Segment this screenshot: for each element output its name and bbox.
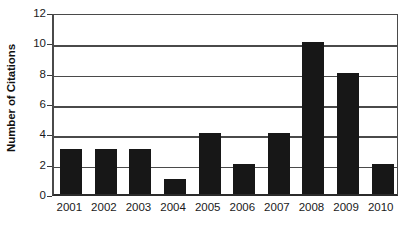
bar[interactable] [199,133,221,194]
x-axis-tick-label: 2008 [294,200,329,214]
y-axis-tick-mark [47,75,52,76]
bar-slot [89,15,124,194]
x-axis-tick-labels: 2001200220032004200520062007200820092010 [52,200,398,220]
x-axis-tick-label: 2009 [329,200,364,214]
plot-area [52,14,398,196]
y-axis-tick-mark [47,166,52,167]
bar[interactable] [372,164,394,194]
bar-slot [227,15,262,194]
y-axis-title-label: Number of Citations [5,44,17,152]
y-axis-tick-label: 0 [22,190,46,202]
bar[interactable] [302,42,324,194]
y-axis-tick-mark [47,44,52,45]
y-axis-tick-label: 8 [22,69,46,81]
bar-slot [54,15,89,194]
bars-layer [54,15,397,194]
y-axis-tick-mark [47,14,52,15]
x-axis-tick-label: 2006 [225,200,260,214]
y-axis-tick-mark [47,196,52,197]
y-axis-tick-label: 12 [22,8,46,20]
bar-slot [331,15,366,194]
y-axis-tick-labels: 024681012 [22,0,46,229]
y-axis-tick-label: 4 [22,130,46,142]
y-axis-tick-label: 6 [22,99,46,111]
bar-slot [262,15,297,194]
bar[interactable] [95,149,117,195]
bar-slot [365,15,400,194]
bar[interactable] [268,133,290,194]
x-axis-tick-label: 2001 [52,200,87,214]
bar[interactable] [337,73,359,194]
bar[interactable] [164,179,186,194]
bar-slot [123,15,158,194]
bar[interactable] [129,149,151,195]
y-axis-tick-mark [47,105,52,106]
y-axis-tick-label: 10 [22,39,46,51]
y-axis-tick-label: 2 [22,160,46,172]
y-axis-tick-mark [47,135,52,136]
x-axis-tick-label: 2010 [363,200,398,214]
bar[interactable] [60,149,82,195]
bar-slot [296,15,331,194]
x-axis-tick-label: 2004 [156,200,191,214]
citations-bar-chart: Number of Citations 024681012 2001200220… [0,0,415,229]
y-axis-title: Number of Citations [0,0,22,196]
bar[interactable] [233,164,255,194]
bar-slot [192,15,227,194]
x-axis-tick-label: 2002 [87,200,122,214]
x-axis-tick-label: 2003 [121,200,156,214]
x-axis-tick-label: 2007 [260,200,295,214]
x-axis-tick-label: 2005 [190,200,225,214]
bar-slot [158,15,193,194]
